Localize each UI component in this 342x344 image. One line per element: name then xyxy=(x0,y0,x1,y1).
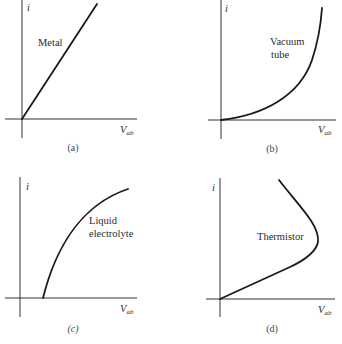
curve-label: Metal xyxy=(38,37,63,48)
x-axis-label: Vab xyxy=(120,124,134,137)
panel-c: i Liquidelectrolyte Vab (c) xyxy=(5,177,137,335)
x-axis-label: Vab xyxy=(318,124,332,137)
y-axis-label: i xyxy=(27,2,30,13)
curve-label: Vacuumtube xyxy=(270,36,304,60)
liquid-electrolyte-curve xyxy=(43,189,128,298)
x-axis-label: Vab xyxy=(120,303,134,316)
curve-label: Liquidelectrolyte xyxy=(89,215,134,239)
panel-caption: (c) xyxy=(67,323,79,335)
y-axis-label: i xyxy=(26,181,29,192)
x-axis-label: Vab xyxy=(318,304,332,317)
panel-a: i Metal Vab (a) xyxy=(5,0,137,154)
figure: i Metal Vab (a) i Vacuumtube Vab (b) i L… xyxy=(0,0,342,344)
y-axis-label: i xyxy=(212,182,215,193)
metal-curve xyxy=(22,4,97,119)
panel-caption: (b) xyxy=(266,143,278,155)
panel-caption: (d) xyxy=(266,323,278,335)
vacuum-tube-curve xyxy=(221,8,322,120)
curve-label: Thermistor xyxy=(257,231,304,242)
y-axis-label: i xyxy=(225,3,228,14)
panel-caption: (a) xyxy=(67,142,78,154)
panel-b: i Vacuumtube Vab (b) xyxy=(208,0,336,155)
panel-d: i Thermistor Vab (d) xyxy=(206,178,335,335)
